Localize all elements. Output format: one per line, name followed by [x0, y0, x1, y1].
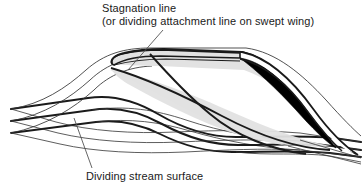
label-stagnation-line1: Stagnation line: [102, 2, 314, 15]
diagram-figure: Stagnation line (or dividing attachment …: [0, 0, 364, 192]
label-stagnation-line2: (or dividing attachment line on swept wi…: [102, 15, 314, 28]
label-dividing-stream-surface: Dividing stream surface: [86, 170, 203, 183]
label-dividing-line1: Dividing stream surface: [86, 170, 203, 183]
label-stagnation-line: Stagnation line (or dividing attachment …: [102, 2, 314, 27]
diagram-canvas: [0, 0, 364, 192]
leader-line-dividing: [74, 118, 92, 168]
